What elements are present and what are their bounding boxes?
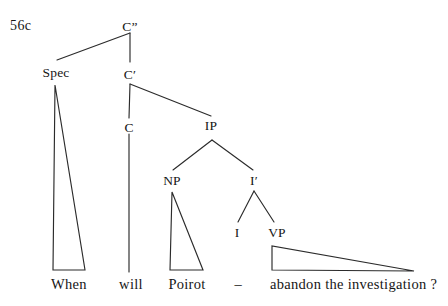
branch-cp-to-spec bbox=[57, 33, 130, 60]
node-c: C bbox=[124, 121, 133, 135]
branch-ibar-to-i bbox=[238, 191, 254, 222]
tree-branches-svg bbox=[0, 0, 448, 306]
leaf-vp-string: abandon the investigation ? bbox=[270, 277, 437, 292]
branch-ip-to-np bbox=[173, 140, 212, 170]
node-np: NP bbox=[163, 174, 181, 188]
branch-cbar-to-ip bbox=[130, 84, 211, 116]
leaf-poirot: Poirot bbox=[168, 277, 205, 292]
leaf-trace-dash: – bbox=[234, 277, 241, 292]
syntax-tree-figure: 56c C” Spec C′ C IP NP I′ I VP When will… bbox=[0, 0, 448, 306]
branch-ip-to-ibar bbox=[212, 140, 253, 170]
example-number: 56c bbox=[10, 19, 31, 33]
node-vp: VP bbox=[268, 226, 286, 240]
triangle-np-poirot bbox=[170, 192, 203, 270]
node-spec: Spec bbox=[42, 66, 69, 80]
leaf-when: When bbox=[51, 277, 87, 292]
node-cp: C” bbox=[122, 20, 137, 34]
leaf-will: will bbox=[119, 277, 143, 292]
node-ibar: I′ bbox=[250, 174, 258, 188]
node-ip: IP bbox=[205, 119, 217, 133]
node-cbar: C′ bbox=[124, 68, 136, 82]
triangle-spec-when bbox=[53, 85, 85, 270]
triangle-vp-predicate bbox=[272, 246, 414, 271]
branch-cbar-to-c bbox=[129, 84, 130, 118]
node-i: I bbox=[235, 226, 240, 240]
branch-ibar-to-vp bbox=[254, 191, 274, 222]
